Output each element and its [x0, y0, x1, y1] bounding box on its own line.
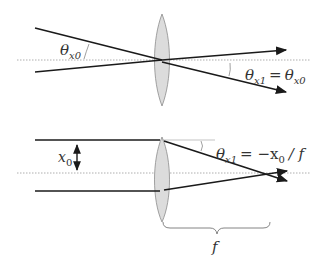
ray-converge-lower-arrow — [164, 171, 287, 190]
focal-length-brace — [163, 222, 270, 234]
diagram-canvas: θx0 θx1=θx0 x0 θx1= −x0/ f f — [0, 0, 326, 260]
ray-out-lower-arrow — [162, 62, 286, 92]
ray-in-upper — [35, 28, 162, 60]
theta-x0-label: θx0 — [60, 41, 82, 61]
angle-arc-out — [229, 63, 230, 76]
ray-out-upper-arrow — [162, 50, 286, 60]
theta-x1-equation: θx1=θx0 — [245, 66, 306, 86]
optics-diagram: θx0 θx1=θx0 x0 θx1= −x0/ f f — [0, 0, 326, 260]
theta-focus-equation: θx1= −x0/ f — [216, 145, 307, 165]
angle-arc-bottom — [201, 141, 203, 151]
ray-in-lower — [35, 60, 162, 72]
angle-arc-in — [84, 44, 89, 59]
top-panel: θx0 θx1=θx0 — [17, 14, 310, 106]
focal-length-label: f — [211, 238, 220, 256]
bottom-panel: x0 θx1= −x0/ f f — [17, 137, 310, 256]
lens-bottom — [155, 137, 170, 222]
x0-label: x0 — [58, 149, 72, 168]
